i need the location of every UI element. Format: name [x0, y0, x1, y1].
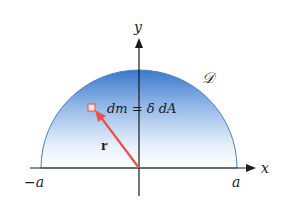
x-axis-label: x: [261, 160, 269, 176]
x-axis-arrowhead-icon: [246, 164, 256, 172]
mass-element-square: [88, 104, 95, 111]
y-axis-arrowhead-icon: [135, 38, 143, 48]
y-axis-label: y: [133, 19, 143, 35]
x-tick-left-label: −a: [24, 174, 44, 190]
position-vector-label: r: [101, 137, 108, 153]
semicircle-diagram: y x 𝒟 dm = δ dA r −a a: [0, 0, 286, 210]
mass-element-label: dm = δ dA: [107, 101, 176, 116]
region-label: 𝒟: [202, 69, 217, 87]
x-tick-right-label: a: [232, 174, 240, 190]
